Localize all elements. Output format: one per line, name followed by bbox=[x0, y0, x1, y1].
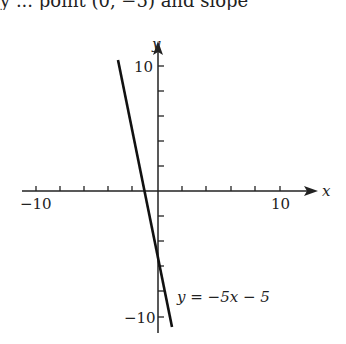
y-axis-label: y bbox=[151, 35, 161, 53]
graph: y x −10 10 10 −10 y = −5x − 5 bbox=[0, 0, 346, 344]
x-axis-label: x bbox=[322, 182, 331, 200]
y-min-label: −10 bbox=[124, 309, 156, 327]
y-max-label: 10 bbox=[134, 58, 153, 76]
x-min-label: −10 bbox=[20, 195, 52, 213]
line-y-equals-neg5x-minus5 bbox=[118, 60, 172, 327]
equation-label: y = −5x − 5 bbox=[176, 288, 270, 306]
x-max-label: 10 bbox=[271, 195, 290, 213]
